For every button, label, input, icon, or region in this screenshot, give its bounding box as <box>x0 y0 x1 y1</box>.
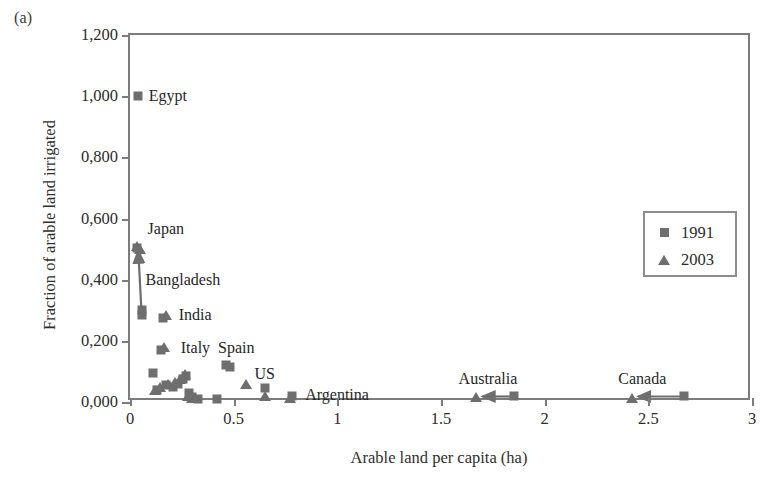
x-tick-mark <box>545 398 547 406</box>
data-point-1991 <box>679 392 688 401</box>
point-label: Australia <box>459 370 518 388</box>
x-tick-label: 2.5 <box>638 409 659 429</box>
point-label: Bangladesh <box>146 271 221 289</box>
y-axis-title: Fraction of arable land irrigated <box>40 55 60 395</box>
triangle-marker-icon <box>656 255 672 265</box>
y-tick-mark <box>122 402 130 404</box>
plot-area: EgyptJapanBangladeshIndiaItalySpainUSArg… <box>128 33 750 400</box>
legend-label: 2003 <box>681 250 714 270</box>
y-tick-label: 0,600 <box>81 208 118 228</box>
y-tick-label: 0,200 <box>81 330 118 350</box>
data-point-1991 <box>148 368 157 377</box>
panel-letter: (a) <box>14 9 32 27</box>
data-point-2003 <box>259 391 271 401</box>
legend-item-1991[interactable]: 1991 <box>645 219 735 246</box>
legend-box[interactable]: 1991 2003 <box>643 211 737 277</box>
point-label: Egypt <box>149 87 187 105</box>
y-tick-mark <box>122 280 130 282</box>
point-label: Italy <box>181 339 210 357</box>
data-point-2003 <box>626 393 638 403</box>
x-tick-label: 0.5 <box>223 409 244 429</box>
y-tick-mark <box>122 157 130 159</box>
data-point-1991 <box>213 394 222 403</box>
x-tick-mark <box>337 398 339 406</box>
data-point-2003 <box>179 369 191 379</box>
x-axis-title: Arable land per capita (ha) <box>128 448 750 468</box>
x-tick-mark <box>130 398 132 406</box>
point-label: Japan <box>148 220 184 238</box>
y-tick-mark <box>122 219 130 221</box>
data-point-2003 <box>189 393 201 403</box>
connector-arrow <box>138 251 141 311</box>
data-point-2003 <box>160 310 172 320</box>
x-tick-label: 3 <box>748 409 756 429</box>
y-tick-mark <box>122 35 130 37</box>
x-tick-mark <box>441 398 443 406</box>
data-point-2003 <box>240 379 252 389</box>
data-point-1991 <box>138 310 147 319</box>
figure-panel: (a) Fraction of arable land irrigated Eg… <box>0 0 781 484</box>
square-marker-icon <box>656 228 672 237</box>
data-point-2003 <box>284 393 296 403</box>
x-tick-mark <box>752 398 754 406</box>
x-tick-label: 1.5 <box>431 409 452 429</box>
legend-item-2003[interactable]: 2003 <box>645 246 735 273</box>
data-point-2003 <box>158 342 170 352</box>
y-tick-mark <box>122 341 130 343</box>
data-point-1991 <box>225 362 234 371</box>
y-tick-mark <box>122 96 130 98</box>
x-tick-label: 0 <box>126 409 134 429</box>
data-point-2003 <box>134 244 146 254</box>
x-tick-mark <box>648 398 650 406</box>
data-point-1991 <box>134 92 143 101</box>
y-tick-label: 1,000 <box>81 86 118 106</box>
x-tick-mark <box>234 398 236 406</box>
legend-label: 1991 <box>681 223 714 243</box>
y-tick-label: 0,000 <box>81 392 118 412</box>
point-label: Canada <box>618 370 666 388</box>
point-label: India <box>179 306 212 324</box>
point-label: Spain <box>218 339 254 357</box>
x-tick-label: 1 <box>333 409 341 429</box>
y-tick-label: 0,800 <box>81 147 118 167</box>
y-tick-label: 0,400 <box>81 269 118 289</box>
x-tick-label: 2 <box>541 409 549 429</box>
point-label: US <box>254 365 274 383</box>
data-point-1991 <box>509 392 518 401</box>
data-point-2003 <box>470 392 482 402</box>
y-tick-label: 1,200 <box>81 25 118 45</box>
